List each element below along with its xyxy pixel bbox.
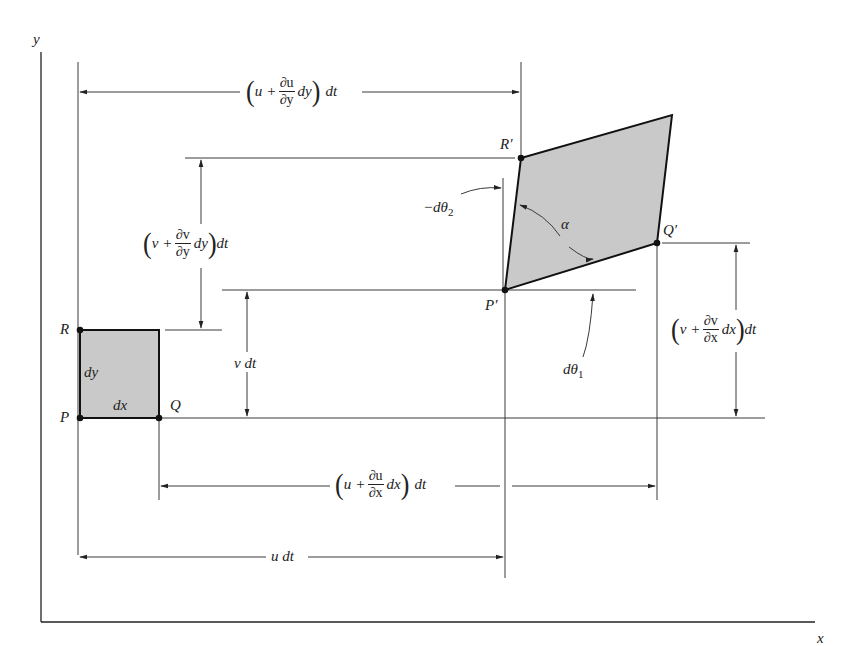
label-Q-prime: Q′ — [663, 223, 677, 238]
label-d-theta-2: −dθ2 — [423, 200, 454, 218]
y-axis-label: y — [33, 32, 40, 47]
label-P: P — [60, 410, 69, 425]
label-dy: dy — [84, 365, 98, 380]
label-alpha: α — [561, 217, 569, 232]
u-dt-dimension: u dt — [268, 549, 297, 564]
deformed-fluid-element — [505, 115, 672, 290]
left-vertical-dimension: (v+ ∂v∂y dy)dt — [140, 228, 231, 259]
label-dx: dx — [113, 398, 127, 413]
right-vertical-dimension: (v+ ∂v∂x dx)dt — [668, 314, 759, 345]
point-Q-prime — [654, 240, 661, 247]
label-R: R — [60, 322, 69, 337]
label-P-prime: P′ — [485, 298, 497, 313]
point-P — [77, 415, 84, 422]
d-theta-2-arrow — [461, 188, 501, 194]
d-theta-1-arrow — [583, 294, 593, 357]
point-P-prime — [502, 287, 509, 294]
point-R — [77, 327, 84, 334]
label-d-theta-1: dθ1 — [563, 362, 583, 380]
point-R-prime — [518, 155, 525, 162]
top-horizontal-dimension: (u+ ∂u∂y dy)dt — [243, 76, 340, 107]
label-Q: Q — [170, 398, 181, 413]
x-axis-label: x — [817, 631, 824, 646]
v-dt-dimension: v dt — [232, 356, 258, 371]
label-R-prime: R′ — [500, 137, 512, 152]
point-Q — [156, 415, 163, 422]
bottom-horizontal-dimension: (u+ ∂u∂x dx)dt — [332, 469, 429, 500]
